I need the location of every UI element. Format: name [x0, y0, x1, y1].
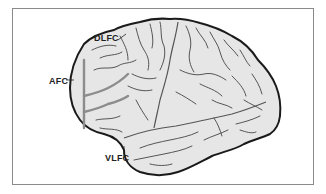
label-dlfc: DLFC [94, 33, 119, 43]
brain-illustration [0, 0, 326, 194]
label-afc: AFC [49, 76, 68, 86]
label-vlfc: VLFC [105, 153, 129, 163]
